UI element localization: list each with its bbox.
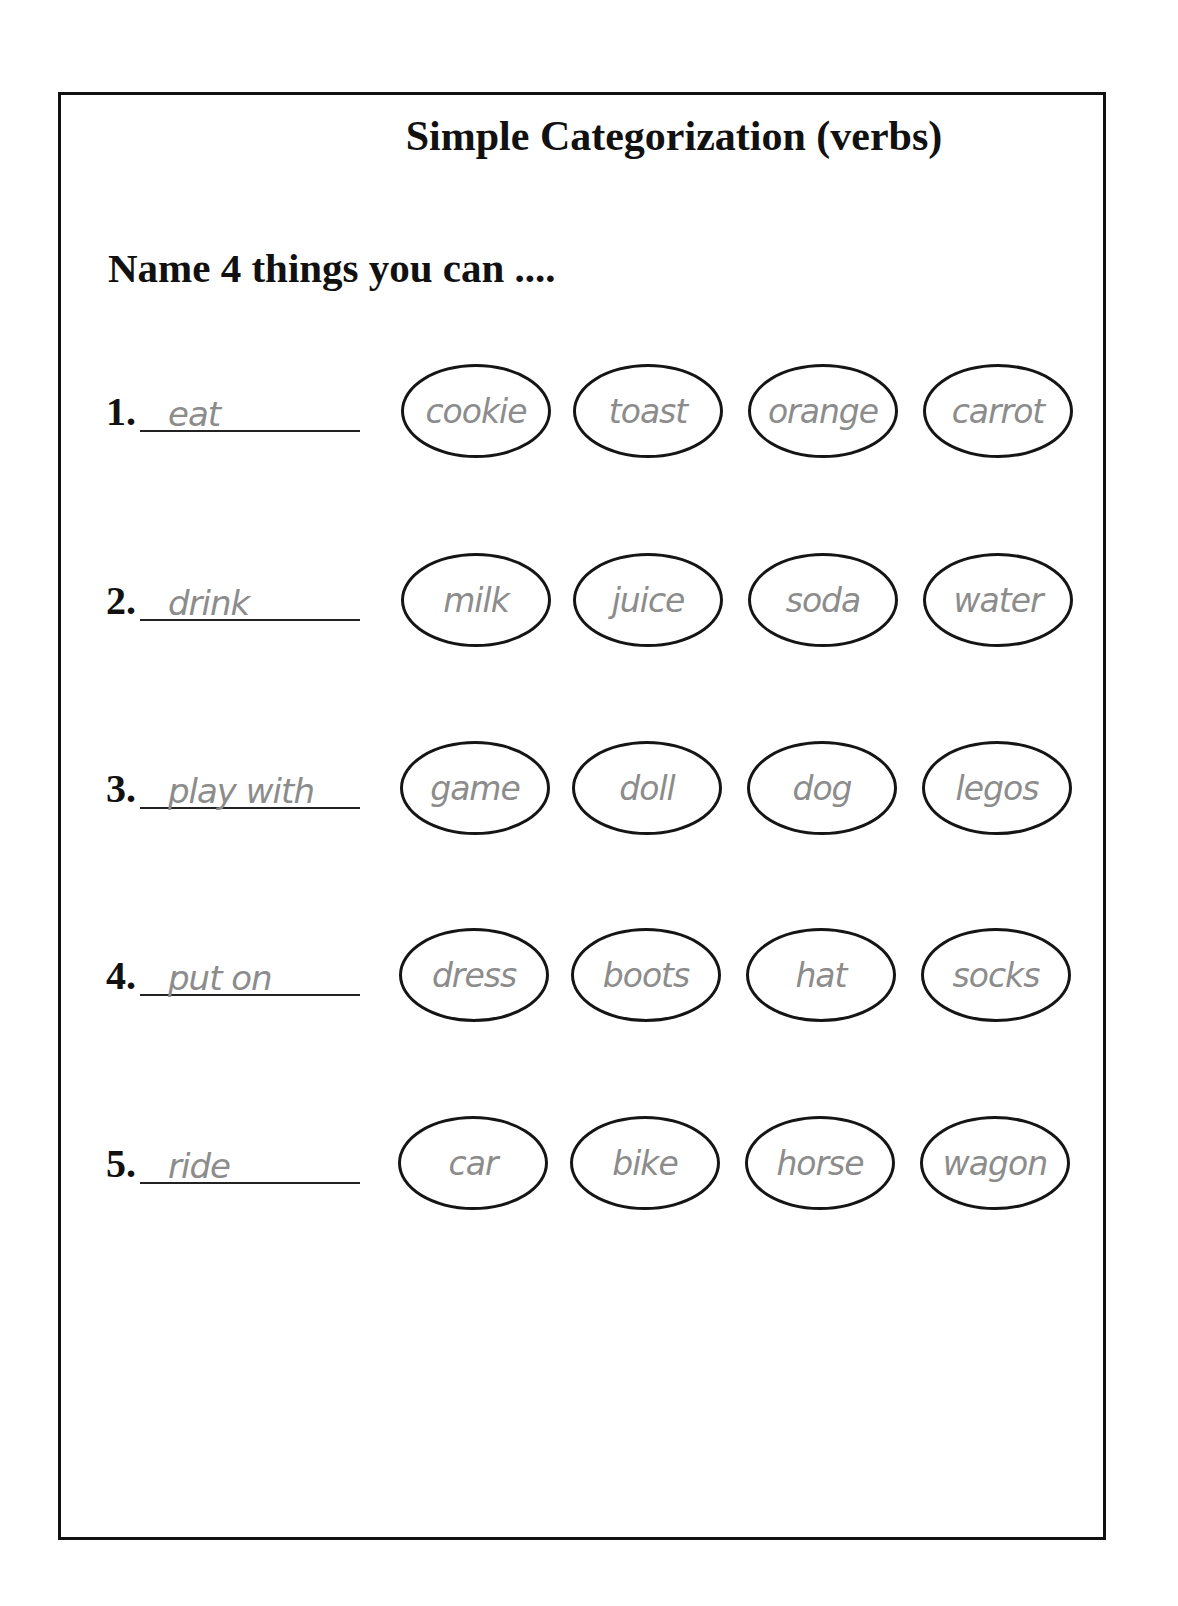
answer-word: legos [956, 769, 1039, 808]
verb-blank[interactable]: drink [140, 571, 360, 621]
answer-oval: toast [573, 364, 723, 458]
answer-word: juice [612, 581, 685, 620]
answer-word: toast [609, 392, 687, 431]
answer-oval: dress [399, 928, 549, 1022]
answer-word: dog [792, 769, 851, 808]
answer-oval: milk [401, 553, 551, 647]
worksheet-title: Simple Categorization (verbs) [0, 112, 1178, 160]
item-number: 5. [106, 1140, 136, 1187]
answer-oval: juice [573, 553, 723, 647]
item-number: 2. [106, 577, 136, 624]
verb-answer: put on [168, 958, 272, 998]
answer-oval: boots [571, 928, 721, 1022]
verb-answer: eat [168, 394, 220, 434]
answer-word: socks [953, 956, 1040, 995]
answer-oval: horse [745, 1116, 895, 1210]
answer-oval: dog [747, 741, 897, 835]
item-number: 3. [106, 765, 136, 812]
answer-word: car [449, 1144, 498, 1183]
item-number: 1. [106, 388, 136, 435]
verb-answer: ride [168, 1146, 230, 1186]
answer-oval: legos [922, 741, 1072, 835]
item-row-1: 1. eat cookie toast orange carrot [0, 364, 1178, 474]
answer-oval: socks [921, 928, 1071, 1022]
answer-word: soda [786, 581, 861, 620]
answer-oval: orange [748, 364, 898, 458]
answer-oval: soda [748, 553, 898, 647]
answer-word: hat [795, 956, 846, 995]
answer-oval: game [400, 741, 550, 835]
answer-word: dress [432, 956, 516, 995]
item-number: 4. [106, 952, 136, 999]
verb-blank[interactable]: eat [140, 382, 360, 432]
answer-oval: cookie [401, 364, 551, 458]
answer-oval: car [398, 1116, 548, 1210]
answer-word: water [953, 581, 1042, 620]
verb-blank[interactable]: play with [140, 759, 360, 809]
answer-word: orange [768, 392, 878, 431]
answer-word: bike [612, 1144, 678, 1183]
verb-answer: play with [168, 771, 314, 811]
answer-word: game [430, 769, 520, 808]
answer-word: boots [603, 956, 689, 995]
item-row-2: 2. drink milk juice soda water [0, 553, 1178, 663]
verb-blank[interactable]: ride [140, 1134, 360, 1184]
item-row-5: 5. ride car bike horse wagon [0, 1116, 1178, 1226]
answer-word: carrot [952, 392, 1045, 431]
answer-word: horse [776, 1144, 863, 1183]
answer-oval: wagon [920, 1116, 1070, 1210]
answer-oval: hat [746, 928, 896, 1022]
item-row-3: 3. play with game doll dog legos [0, 741, 1178, 851]
answer-word: doll [619, 769, 674, 808]
answer-oval: carrot [923, 364, 1073, 458]
answer-oval: water [923, 553, 1073, 647]
answer-word: milk [443, 581, 509, 620]
worksheet-prompt: Name 4 things you can .... [108, 244, 556, 292]
answer-word: cookie [425, 392, 526, 431]
verb-blank[interactable]: put on [140, 946, 360, 996]
answer-oval: bike [570, 1116, 720, 1210]
answer-word: wagon [943, 1144, 1047, 1183]
verb-answer: drink [168, 583, 249, 623]
answer-oval: doll [572, 741, 722, 835]
item-row-4: 4. put on dress boots hat socks [0, 928, 1178, 1038]
